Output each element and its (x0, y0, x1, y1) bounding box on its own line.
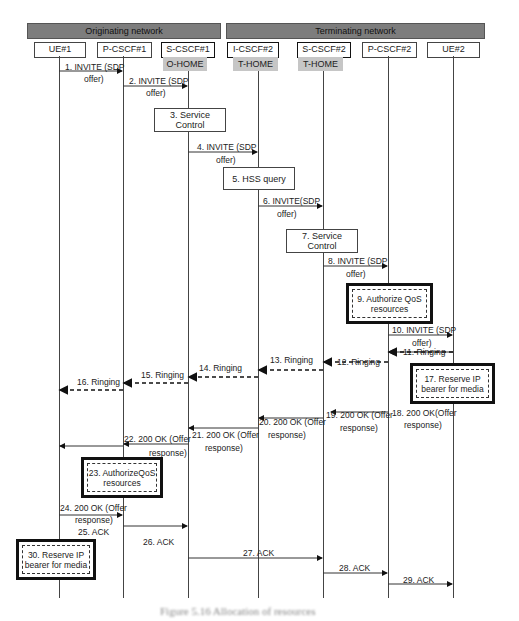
action-23-authorize-qos: 23. AuthorizeQoSresources (81, 457, 163, 498)
message-18-label: 18. 200 OK(Offer (392, 408, 457, 418)
message-21-label: 21. 200 OK (Offer (192, 430, 259, 440)
action-9-inner: 9. Authorize QoSresources (352, 289, 427, 318)
action-23-inner: 23. AuthorizeQoSresources (87, 463, 157, 492)
message-14-label: 14. Ringing (199, 363, 242, 373)
action-3-service-control: 3. Service Control (154, 108, 226, 132)
message-25-label: 25. ACK (76, 527, 111, 537)
message-24-label-line2: response) (75, 515, 113, 525)
action-17-line2: bearer for media (421, 384, 483, 394)
action-9-authorize-qos: 9. Authorize QoSresources (346, 283, 433, 324)
message-6-label-line2: offer) (277, 209, 297, 219)
action-9-line2: resources (371, 304, 408, 314)
message-28-label: 28. ACK (339, 563, 370, 573)
message-10-label: 10. INVITE (SDP (392, 325, 456, 335)
message-11-label: 11. Ringing (403, 347, 445, 357)
message-8-label: 8. INVITE (SDP (328, 256, 388, 266)
message-29-label: 29. ACK (403, 575, 434, 585)
action-30-inner: 30. Reserve IPbearer for media (22, 545, 90, 574)
message-4-label: 4. INVITE (SDP (197, 142, 257, 152)
message-24-label: 24. 200 OK (Offer (60, 503, 127, 513)
message-12-label: 12. Ringing (337, 357, 380, 367)
message-6-label: 6. INVITE(SDP (263, 196, 320, 206)
action-23-line1: 23. AuthorizeQoS (89, 468, 156, 478)
message-16-label: 16. Ringing (77, 377, 120, 387)
message-22-label: 22. 200 OK (Offer (124, 434, 191, 444)
action-7-service-control: 7. Service Control (286, 229, 358, 253)
message-1-label-line2: offer) (84, 74, 104, 84)
message-19-label: 19. 200 OK (Offer (326, 410, 393, 420)
message-8-label-line2: offer) (346, 269, 366, 279)
message-13-label: 13. Ringing (270, 355, 313, 365)
action-30-line2: bearer for media (25, 560, 87, 570)
action-17-reserve-ip-bearer: 17. Reserve IPbearer for media (410, 363, 495, 404)
action-23-line2: resources (103, 478, 140, 488)
message-2-label: 2. INVITE (SDP (129, 76, 189, 86)
message-27-label: 27. ACK (243, 548, 274, 558)
message-26-label: 26. ACK (141, 537, 176, 547)
message-18-label-line2: response) (404, 420, 442, 430)
message-21-label-line2: response) (205, 443, 243, 453)
message-15-label: 15. Ringing (141, 370, 184, 380)
message-1-label: 1. INVITE (SDP (65, 62, 125, 72)
message-19-label-line2: response) (340, 423, 378, 433)
action-30-line1: 30. Reserve IP (28, 550, 84, 560)
message-20-label-line2: response) (268, 430, 306, 440)
message-20-label: 20. 200 OK (Offer (259, 417, 326, 427)
action-17-line1: 17. Reserve IP (424, 374, 480, 384)
action-5-hss-query: 5. HSS query (223, 167, 295, 190)
action-30-reserve-ip-bearer: 30. Reserve IPbearer for media (16, 539, 96, 580)
figure-caption: Figure 5.16 Allocation of resources (160, 605, 316, 617)
message-2-label-line2: offer) (146, 88, 166, 98)
action-17-inner: 17. Reserve IPbearer for media (416, 369, 489, 398)
action-9-line1: 9. Authorize QoS (357, 294, 421, 304)
message-4-label-line2: offer) (216, 155, 236, 165)
